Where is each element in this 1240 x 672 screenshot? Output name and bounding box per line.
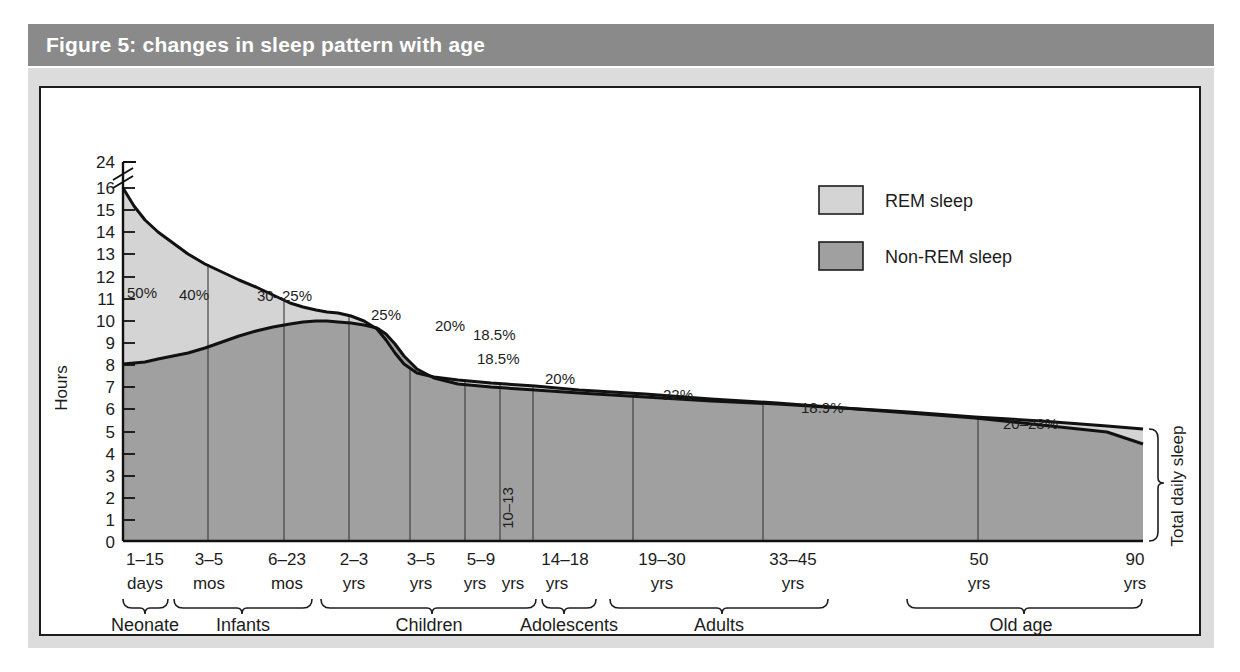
group-children: Children	[395, 615, 462, 634]
brace-children	[321, 599, 536, 614]
ytick-5: 5	[106, 423, 115, 442]
ytick-14: 14	[96, 223, 115, 242]
age-group-labels: Neonate Infants Children Adolescents Adu…	[111, 615, 1053, 634]
group-neonate: Neonate	[111, 615, 179, 634]
xtick-4-line1: 3–5	[407, 550, 435, 569]
brace-neonate	[123, 599, 168, 614]
figure-title-bar: Figure 5: changes in sleep pattern with …	[28, 24, 1214, 66]
xtick-8-line2: yrs	[651, 574, 674, 593]
xtick-7-line2: yrs	[546, 574, 569, 593]
pct-20-b: 20%	[545, 370, 575, 387]
total-daily-sleep-label: Total daily sleep	[1168, 426, 1187, 547]
legend-swatch-non-rem	[819, 242, 863, 270]
xtick-5-line2: yrs	[464, 574, 487, 593]
ytick-8: 8	[106, 356, 115, 375]
xtick-10-line1: 50	[970, 550, 989, 569]
ytick-7: 7	[106, 378, 115, 397]
xtick-9-line1: 33–45	[769, 550, 816, 569]
group-infants: Infants	[216, 615, 270, 634]
xtick-3-line1: 2–3	[340, 550, 368, 569]
figure-page: Figure 5: changes in sleep pattern with …	[0, 0, 1240, 672]
ytick-16: 16	[96, 179, 115, 198]
xtick-3-line2: yrs	[343, 574, 366, 593]
group-adolescents: Adolescents	[520, 615, 618, 634]
total-sleep-brace	[1149, 429, 1164, 541]
pct-50: 50%	[127, 284, 157, 301]
xtick-11-line1: 90	[1126, 550, 1145, 569]
ytick-10: 10	[96, 312, 115, 331]
pct-25: 25%	[371, 306, 401, 323]
inplot-rotated-label-10-13: 10–13	[499, 487, 516, 529]
legend-swatch-rem	[819, 186, 863, 214]
ytick-2: 2	[106, 489, 115, 508]
pct-22: 22%	[663, 386, 693, 403]
xtick-5-line1: 5–9	[467, 550, 495, 569]
brace-old-age	[907, 599, 1142, 614]
ytick-3: 3	[106, 467, 115, 486]
group-old-age: Old age	[989, 615, 1052, 634]
pct-20-23: 20–23%	[1003, 415, 1058, 432]
ytick-9: 9	[106, 334, 115, 353]
chart-legend: REM sleep Non-REM sleep	[819, 186, 1012, 270]
xtick-6-line2: yrs	[502, 574, 525, 593]
ytick-11: 11	[97, 290, 115, 309]
xtick-4-line2: yrs	[410, 574, 433, 593]
xtick-9-line2: yrs	[782, 574, 805, 593]
figure-mat: 24 16 15 14 13 12 11 10 9 8 7 6 5 4 3 2	[28, 68, 1214, 648]
ytick-0: 0	[106, 533, 115, 552]
figure-panel: 24 16 15 14 13 12 11 10 9 8 7 6 5 4 3 2	[39, 86, 1201, 636]
xtick-11-line2: yrs	[1124, 574, 1147, 593]
ytick-4: 4	[106, 445, 115, 464]
ytick-13: 13	[96, 245, 115, 264]
age-group-braces	[123, 599, 1142, 614]
xtick-7-line1: 14–18	[541, 550, 588, 569]
xtick-8-line1: 19–30	[638, 550, 685, 569]
figure-title: Figure 5: changes in sleep pattern with …	[28, 33, 485, 57]
legend-label-rem: REM sleep	[885, 191, 973, 211]
brace-infants	[174, 599, 312, 614]
y-axis-title: Hours	[52, 365, 71, 410]
brace-adolescents	[542, 599, 596, 614]
ytick-6: 6	[106, 400, 115, 419]
group-adults: Adults	[694, 615, 744, 634]
ytick-24: 24	[96, 153, 115, 172]
ytick-15: 15	[96, 201, 115, 220]
xtick-2-line2: mos	[271, 574, 303, 593]
pct-40: 40%	[179, 286, 209, 303]
y-axis-tick-labels: 24 16 15 14 13 12 11 10 9 8 7 6 5 4 3 2	[96, 153, 115, 552]
sleep-pattern-chart: 24 16 15 14 13 12 11 10 9 8 7 6 5 4 3 2	[41, 88, 1199, 634]
ytick-12: 12	[96, 268, 115, 287]
xtick-10-line2: yrs	[968, 574, 991, 593]
xtick-2-line1: 6–23	[268, 550, 306, 569]
pct-18-5-a: 18.5%	[473, 326, 516, 343]
pct-18-9: 18.9%	[801, 399, 844, 416]
xtick-0-line2: days	[127, 574, 163, 593]
xtick-1-line1: 3–5	[195, 550, 223, 569]
xtick-0-line1: 1–15	[126, 550, 164, 569]
pct-30-25: 30–25%	[257, 287, 312, 304]
legend-label-non-rem: Non-REM sleep	[885, 247, 1012, 267]
xtick-1-line2: mos	[193, 574, 225, 593]
x-axis-tick-labels: 1–15 days 3–5 mos 6–23 mos 2–3 yrs 3–5 y…	[126, 550, 1146, 593]
ytick-1: 1	[106, 511, 115, 530]
brace-adults	[610, 599, 828, 614]
pct-18-5-b: 18.5%	[477, 350, 520, 367]
pct-20-a: 20%	[435, 317, 465, 334]
